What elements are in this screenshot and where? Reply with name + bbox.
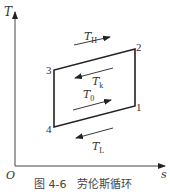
s-axis-label: s xyxy=(161,168,167,181)
t-h-annotation: TH xyxy=(74,30,110,45)
svg-text:Tk: Tk xyxy=(92,75,103,90)
arrow-left-icon xyxy=(76,128,113,138)
point-1-label: 1 xyxy=(136,101,142,113)
t-k-annotation: Tk xyxy=(75,68,113,90)
t-l-annotation: TL xyxy=(76,128,113,155)
point-3-label: 3 xyxy=(46,64,52,76)
figure-caption: 图 4-6 劳伦斯循环 xyxy=(34,177,132,191)
point-2-label: 2 xyxy=(136,41,142,53)
origin-label: O xyxy=(6,169,15,182)
svg-text:TL: TL xyxy=(92,140,104,155)
lorenz-cycle-diagram: T s O 1 2 3 4 TH Tk T0 TL 图 4-6 劳伦斯循环 xyxy=(0,0,170,192)
point-4-label: 4 xyxy=(46,123,52,135)
t-0-annotation: T0 xyxy=(73,88,111,110)
t-axis-label: T xyxy=(4,5,13,19)
svg-text:T0: T0 xyxy=(83,88,94,103)
lorenz-cycle-path xyxy=(54,49,135,127)
